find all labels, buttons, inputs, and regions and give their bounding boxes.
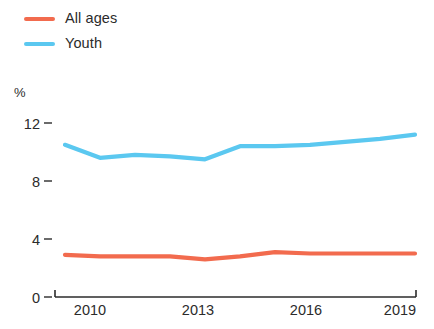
y-axis-ticks xyxy=(44,123,52,297)
plot-area xyxy=(0,0,434,329)
line-chart: All ages Youth % 12 8 4 0 2010 2013 2016… xyxy=(0,0,434,329)
data-line-youth xyxy=(65,135,415,160)
data-line-all-ages xyxy=(65,252,415,259)
axis-lines xyxy=(55,290,416,297)
